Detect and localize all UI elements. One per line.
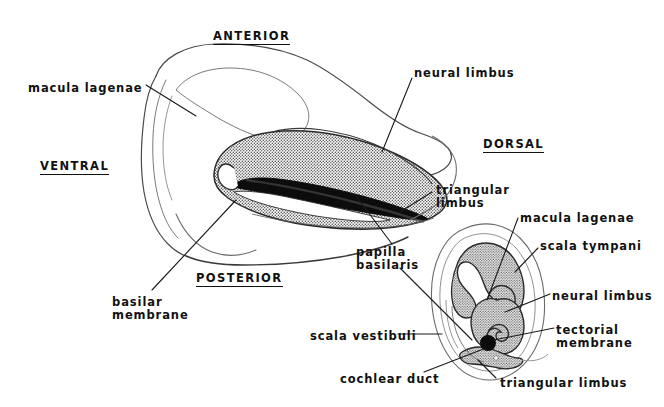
label-inset-tectorial-membrane: tectorial membrane <box>556 324 633 350</box>
inset-neural-limbus-arm <box>471 299 524 354</box>
label-inset-macula-lagenae: macula lagenae <box>520 212 635 225</box>
leader-macula-lagenae <box>146 85 196 116</box>
inset-right-tail <box>522 354 548 361</box>
inset-foot-lumen <box>494 356 498 360</box>
main-inner-crease-left2 <box>163 96 172 200</box>
main-cochlea-group <box>141 44 456 265</box>
label-inset-cochlear-duct: cochlear duct <box>340 373 439 386</box>
cochlea-figure: ANTERIORVENTRALDORSALPOSTERIOR macula la… <box>0 0 664 407</box>
label-ventral: VENTRAL <box>40 160 109 175</box>
label-papilla-basilaris: papilla basilaris <box>356 246 419 272</box>
label-dorsal: DORSAL <box>483 138 544 153</box>
label-inset-neural-limbus: neural limbus <box>552 290 652 303</box>
label-triangular-limbus: triangular limbus <box>436 184 510 210</box>
label-macula-lagenae: macula lagenae <box>28 82 143 95</box>
label-inset-scala-tympani: scala tympani <box>540 240 642 253</box>
label-inset-scala-vestibuli: scala vestibuli <box>310 330 417 343</box>
main-inner-crease-left <box>153 80 178 238</box>
main-ventral-lobe <box>176 214 256 255</box>
inset-tectorial-blob <box>480 335 496 351</box>
label-anterior: ANTERIOR <box>213 30 290 45</box>
label-basilar-membrane: basilar membrane <box>112 296 189 322</box>
label-neural-limbus: neural limbus <box>414 67 514 80</box>
label-inset-triangular-limbus: triangular limbus <box>500 377 627 390</box>
label-posterior: POSTERIOR <box>196 272 283 287</box>
